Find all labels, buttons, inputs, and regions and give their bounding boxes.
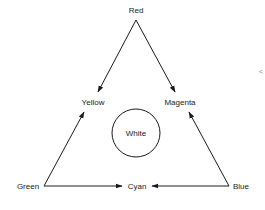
arrow-blue-to-magenta [189, 112, 229, 186]
label-green: Green [17, 182, 39, 191]
label-white: White [126, 129, 147, 138]
label-blue: Blue [233, 182, 250, 191]
color-mixing-diagram: Red Yellow Magenta White Green Cyan Blue… [0, 0, 265, 210]
arrow-red-to-yellow [98, 20, 136, 92]
margin-mark: < [259, 68, 263, 75]
label-red: Red [129, 6, 144, 15]
arrow-green-to-yellow [44, 112, 84, 186]
label-cyan: Cyan [128, 182, 147, 191]
label-magenta: Magenta [164, 98, 196, 107]
arrow-red-to-magenta [136, 20, 175, 92]
label-yellow: Yellow [82, 98, 105, 107]
